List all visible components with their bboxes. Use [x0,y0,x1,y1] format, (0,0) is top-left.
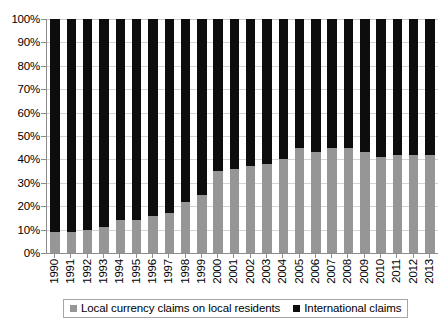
bar-slot [275,19,291,253]
bar-slot [80,19,96,253]
y-tick-label: 10% [18,224,40,236]
bar-segment-international-claims [425,19,434,155]
bar-segment-international-claims [311,19,320,152]
stacked-bar [246,19,255,253]
x-tick-label: 1997 [162,259,174,284]
y-tick-label: 50% [18,130,40,142]
plot-area [46,19,438,254]
x-tick-label: 2002 [244,259,256,284]
stacked-bar [344,19,353,253]
legend-swatch-icon [70,305,77,312]
x-tick-mark [54,253,55,258]
x-tick-label: 1992 [81,259,93,284]
x-tick-mark [168,253,169,258]
x-label-slot: 1997 [160,259,176,297]
bar-slot [47,19,63,253]
x-label-slot: 2004 [274,259,290,297]
bar-series-container [47,19,438,253]
bar-segment-international-claims [148,19,157,216]
x-label-slot: 1999 [193,259,209,297]
stacked-bar [181,19,190,253]
bar-segment-local-currency-claims [148,216,157,253]
stacked-bar [409,19,418,253]
stacked-bar [165,19,174,253]
stacked-bar-chart: 0%10%20%30%40%50%60%70%80%90%100% 199019… [0,0,445,323]
bar-segment-international-claims [360,19,369,152]
legend-item[interactable]: International claims [293,302,401,315]
x-label-slot: 1998 [176,259,192,297]
bar-segment-international-claims [181,19,190,202]
x-tick-label: 2000 [211,259,223,284]
y-tick-mark [41,253,46,254]
stacked-bar [116,19,125,253]
x-tick-label: 1995 [130,259,142,284]
bar-segment-local-currency-claims [67,232,76,253]
bar-segment-international-claims [99,19,108,227]
bar-segment-international-claims [262,19,271,164]
x-tick-mark [152,253,153,258]
x-label-slot: 1995 [127,259,143,297]
bar-slot [308,19,324,253]
bar-segment-local-currency-claims [279,159,288,253]
x-tick-mark [119,253,120,258]
bar-slot [161,19,177,253]
bar-segment-local-currency-claims [376,157,385,253]
stacked-bar [67,19,76,253]
bar-segment-international-claims [116,19,125,220]
bar-segment-international-claims [197,19,206,195]
stacked-bar [295,19,304,253]
x-label-slot: 1990 [46,259,62,297]
x-label-slot: 1994 [111,259,127,297]
stacked-bar [50,19,59,253]
x-label-slot: 2005 [290,259,306,297]
x-tick-label: 2001 [227,259,239,284]
bar-segment-international-claims [279,19,288,159]
y-tick-mark [41,206,46,207]
stacked-bar [99,19,108,253]
legend-item[interactable]: Local currency claims on local residents [70,302,280,315]
x-label-slot: 2008 [339,259,355,297]
x-tick-mark [347,253,348,258]
bar-slot [63,19,79,253]
y-tick-mark [41,230,46,231]
legend-label: Local currency claims on local residents [81,302,280,315]
bar-segment-local-currency-claims [197,195,206,254]
stacked-bar [83,19,92,253]
x-label-slot: 2003 [258,259,274,297]
bar-segment-local-currency-claims [360,152,369,253]
bar-segment-local-currency-claims [165,213,174,253]
bar-segment-local-currency-claims [213,171,222,253]
x-tick-label: 1998 [179,259,191,284]
x-label-slot: 2002 [242,259,258,297]
x-tick-label: 2009 [358,259,370,284]
x-tick-mark [70,253,71,258]
bar-slot [389,19,405,253]
stacked-bar [327,19,336,253]
bar-segment-local-currency-claims [425,155,434,253]
y-tick-label: 20% [18,200,40,212]
x-tick-label: 2003 [260,259,272,284]
x-tick-mark [185,253,186,258]
x-label-slot: 2000 [209,259,225,297]
bar-segment-international-claims [67,19,76,232]
bar-slot [226,19,242,253]
x-tick-mark [87,253,88,258]
x-tick-mark [380,253,381,258]
bar-slot [177,19,193,253]
y-tick-label: 60% [18,107,40,119]
stacked-bar [376,19,385,253]
bar-segment-local-currency-claims [393,155,402,253]
bar-segment-local-currency-claims [83,230,92,253]
bar-slot [291,19,307,253]
bar-slot [145,19,161,253]
bar-slot [340,19,356,253]
y-tick-label: 70% [18,83,40,95]
y-tick-mark [41,113,46,114]
y-axis: 0%10%20%30%40%50%60%70%80%90%100% [0,19,40,253]
stacked-bar [393,19,402,253]
x-axis: 1990199119921993199419951996199719981999… [46,259,437,297]
bar-segment-local-currency-claims [116,220,125,253]
y-tick-mark [41,159,46,160]
x-tick-mark [299,253,300,258]
legend-swatch-icon [293,305,300,312]
